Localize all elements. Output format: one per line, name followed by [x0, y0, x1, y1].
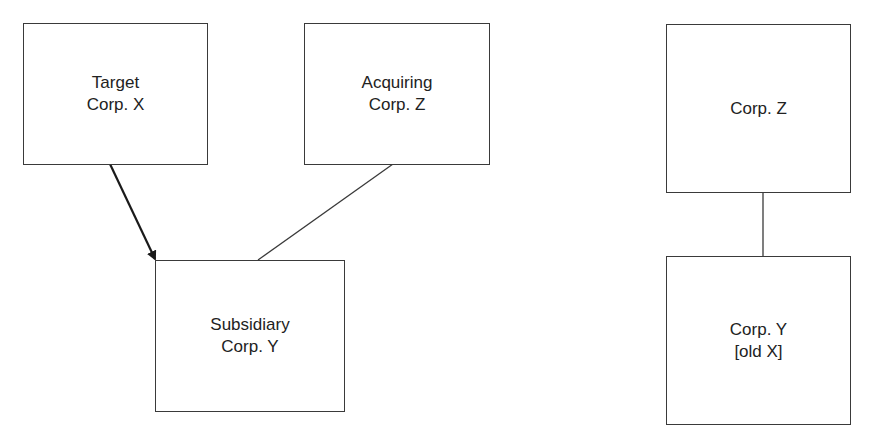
label-line: Corp. Z [369, 94, 426, 116]
box-corp-z: Corp. Z [666, 24, 851, 193]
label-line: Corp. Y [730, 319, 787, 341]
merger-diagram: Target Corp. X Acquiring Corp. Z Subsidi… [0, 0, 874, 441]
box-label: Corp. Z [730, 98, 787, 120]
box-acquiring-corp-z: Acquiring Corp. Z [304, 23, 490, 165]
box-label: Subsidiary Corp. Y [210, 314, 289, 358]
label-line: Corp. X [87, 94, 145, 116]
box-corp-y-old-x: Corp. Y [old X] [666, 256, 851, 425]
label-line: Subsidiary [210, 314, 289, 336]
box-label: Acquiring Corp. Z [362, 72, 433, 116]
label-line: Target [92, 72, 139, 94]
box-label: Corp. Y [old X] [730, 319, 787, 363]
label-line: Acquiring [362, 72, 433, 94]
label-line: Corp. Z [730, 98, 787, 120]
box-label: Target Corp. X [87, 72, 145, 116]
label-line: Corp. Y [221, 336, 278, 358]
line-acquiring-to-subsidiary [258, 164, 393, 260]
arrow-target-to-subsidiary [110, 164, 155, 259]
box-target-corp-x: Target Corp. X [23, 23, 208, 165]
label-line: [old X] [734, 341, 782, 363]
box-subsidiary-corp-y: Subsidiary Corp. Y [155, 260, 345, 412]
